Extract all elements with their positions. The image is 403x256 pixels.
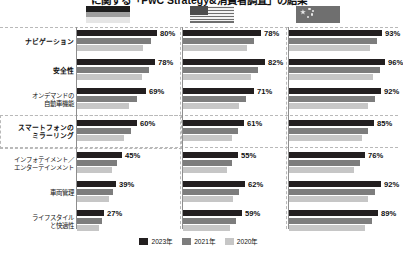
- bar-group: 55%: [183, 152, 283, 175]
- bar-value-label: 27%: [107, 209, 122, 218]
- bar-2023年: [289, 120, 374, 126]
- bar-group: 62%: [183, 181, 283, 204]
- bar-2021年: [289, 189, 375, 195]
- bar-2021年: [183, 96, 246, 102]
- bar-value-label: 80%: [160, 29, 175, 38]
- bar-2023年: [183, 59, 265, 65]
- bar-group: 85%: [289, 120, 389, 143]
- bar-2020年: [183, 135, 232, 141]
- bar-value-label: 62%: [248, 180, 263, 189]
- bar-value-label: 96%: [388, 58, 403, 67]
- bar-2021年: [289, 67, 380, 73]
- legend-swatch: [225, 238, 234, 245]
- group-divider-lower: [0, 147, 398, 148]
- legend-item[interactable]: 2021年: [182, 236, 216, 246]
- bar-value-label: 78%: [158, 58, 173, 67]
- legend-swatch: [182, 238, 191, 245]
- bar-2023年: [289, 210, 378, 216]
- bar-2021年: [77, 38, 151, 44]
- bar-row: 安全性78%82%96%: [0, 56, 398, 85]
- bar-2020年: [77, 74, 142, 80]
- bar-2021年: [183, 189, 239, 195]
- bar-2020年: [289, 196, 368, 202]
- bar-group: 61%: [183, 120, 283, 143]
- bar-value-label: 92%: [384, 87, 399, 96]
- bar-2020年: [77, 135, 124, 141]
- legend-item[interactable]: 2023年: [139, 236, 173, 246]
- legend-swatch: [139, 238, 148, 245]
- bar-2020年: [183, 196, 233, 202]
- bar-row: インフォテイメント／ エンターテインメント45%55%76%: [0, 149, 398, 178]
- category-label: 安全性: [2, 66, 74, 74]
- bar-2023年: [183, 210, 242, 216]
- bar-group: 92%: [289, 88, 389, 111]
- group-divider-upper: [0, 115, 398, 116]
- bar-row: オンデマンドの 自動車機能69%71%92%: [0, 85, 398, 114]
- bar-2020年: [183, 74, 251, 80]
- bar-value-label: 39%: [119, 180, 134, 189]
- bar-2021年: [77, 189, 113, 195]
- category-label: オンデマンドの 自動車機能: [2, 91, 74, 107]
- usa-flag: [190, 6, 234, 23]
- bar-value-label: 45%: [125, 151, 140, 160]
- category-label: 車両管理: [2, 188, 74, 196]
- bar-2021年: [77, 218, 102, 224]
- bar-row: 車両管理39%62%92%: [0, 178, 398, 207]
- bar-group: 71%: [183, 88, 283, 111]
- bar-2021年: [289, 218, 372, 224]
- bar-2020年: [289, 167, 354, 173]
- bar-group: 89%: [289, 210, 389, 233]
- bar-2023年: [183, 181, 245, 187]
- bar-2020年: [289, 103, 368, 109]
- legend-label: 2020年: [237, 236, 259, 246]
- bar-value-label: 59%: [245, 209, 260, 218]
- legend-label: 2021年: [194, 236, 216, 246]
- bar-2023年: [77, 152, 122, 158]
- bar-row: スマートフォンの ミラーリング60%61%85%: [0, 117, 398, 146]
- bar-group: 82%: [183, 59, 283, 82]
- bar-2020年: [77, 45, 143, 51]
- bar-value-label: 85%: [377, 119, 392, 128]
- bar-2023年: [183, 120, 244, 126]
- bar-2020年: [183, 167, 227, 173]
- bar-2021年: [77, 160, 117, 166]
- legend-label: 2023年: [151, 236, 173, 246]
- category-label: ナビゲーション: [2, 37, 74, 45]
- bar-2021年: [183, 67, 258, 73]
- chart-legend: 2023年2021年2020年: [0, 236, 398, 246]
- bar-2021年: [289, 128, 368, 134]
- bar-group: 92%: [289, 181, 389, 204]
- bar-2021年: [289, 160, 360, 166]
- bar-value-label: 92%: [384, 180, 399, 189]
- bar-group: 60%: [77, 120, 177, 143]
- bar-2023年: [77, 30, 157, 36]
- bar-2020年: [183, 45, 247, 51]
- bar-2021年: [77, 67, 149, 73]
- bar-2023年: [289, 152, 365, 158]
- bar-2021年: [183, 160, 232, 166]
- bar-2020年: [183, 103, 239, 109]
- china-flag: [296, 6, 340, 23]
- bar-2020年: [77, 225, 99, 231]
- bar-2021年: [289, 96, 375, 102]
- bar-value-label: 82%: [268, 58, 283, 67]
- bar-2023年: [183, 88, 254, 94]
- bar-group: 59%: [183, 210, 283, 233]
- bar-2023年: [77, 59, 155, 65]
- legend-item[interactable]: 2020年: [225, 236, 259, 246]
- bar-value-label: 76%: [368, 151, 383, 160]
- bar-value-label: 60%: [140, 119, 155, 128]
- bar-value-label: 69%: [149, 87, 164, 96]
- bar-2021年: [77, 128, 131, 134]
- bar-value-label: 61%: [247, 119, 262, 128]
- bar-value-label: 71%: [257, 87, 272, 96]
- bar-value-label: 55%: [241, 151, 256, 160]
- bar-row: ナビゲーション80%78%93%: [0, 27, 398, 56]
- bar-group: 78%: [77, 59, 177, 82]
- bar-group: 76%: [289, 152, 389, 175]
- bar-2023年: [77, 181, 116, 187]
- bar-2023年: [77, 210, 104, 216]
- category-label: ライフスタイル と快適性: [2, 213, 74, 229]
- bar-2020年: [289, 74, 373, 80]
